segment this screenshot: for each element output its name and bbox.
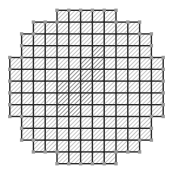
- mesh-cell: [69, 10, 81, 22]
- mesh-cell: [128, 34, 140, 46]
- mesh-cell: [81, 46, 93, 58]
- mesh-cell: [151, 93, 163, 105]
- mesh-cell: [33, 105, 45, 117]
- boundary-node: [8, 103, 11, 106]
- boundary-node: [138, 20, 141, 23]
- mesh-cell: [69, 128, 81, 140]
- mesh-cell: [128, 93, 140, 105]
- mesh-cell: [92, 10, 104, 22]
- mesh-cell: [69, 81, 81, 93]
- mesh-cell: [45, 34, 57, 46]
- mesh-cell: [116, 140, 128, 152]
- mesh-cell: [69, 105, 81, 117]
- mesh-cell: [128, 140, 140, 152]
- boundary-node: [162, 115, 165, 118]
- mesh-cell: [57, 81, 69, 93]
- mesh-cell: [104, 69, 116, 81]
- mesh-cell: [57, 140, 69, 152]
- mesh-cell: [116, 34, 128, 46]
- mesh-cell: [10, 81, 22, 93]
- mesh-cell: [104, 81, 116, 93]
- mesh-cell: [92, 140, 104, 152]
- mesh-cell: [81, 10, 93, 22]
- mesh-cell: [57, 10, 69, 22]
- boundary-node: [20, 138, 23, 141]
- boundary-node: [32, 20, 35, 23]
- boundary-node: [103, 162, 106, 165]
- boundary-node: [8, 91, 11, 94]
- boundary-node: [114, 20, 117, 23]
- mesh-cell: [10, 58, 22, 70]
- mesh-cell: [104, 105, 116, 117]
- boundary-node: [162, 91, 165, 94]
- mesh-cell: [116, 93, 128, 105]
- boundary-node: [126, 20, 129, 23]
- mesh-cell: [151, 105, 163, 117]
- mesh-cell: [45, 93, 57, 105]
- mesh-cell: [140, 46, 152, 58]
- boundary-node: [20, 44, 23, 47]
- mesh-cell: [57, 34, 69, 46]
- mesh-cell: [92, 152, 104, 164]
- mesh-cell: [33, 46, 45, 58]
- mesh-cell: [104, 22, 116, 34]
- mesh-cell: [69, 34, 81, 46]
- boundary-node: [150, 127, 153, 130]
- mesh-cell: [57, 93, 69, 105]
- mesh-cell: [92, 58, 104, 70]
- boundary-node: [138, 138, 141, 141]
- mesh-cell: [22, 105, 34, 117]
- mesh-cell: [33, 140, 45, 152]
- mesh-cell: [92, 105, 104, 117]
- mesh-cell: [81, 81, 93, 93]
- mesh-cell: [81, 93, 93, 105]
- mesh-cell: [128, 128, 140, 140]
- boundary-node: [138, 150, 141, 153]
- boundary-node: [162, 68, 165, 71]
- mesh-cell: [116, 22, 128, 34]
- mesh-cell: [92, 81, 104, 93]
- boundary-node: [150, 115, 153, 118]
- mesh-cell: [22, 58, 34, 70]
- mesh-cell: [57, 69, 69, 81]
- mesh-cell: [81, 105, 93, 117]
- boundary-node: [8, 115, 11, 118]
- mesh-cell: [128, 69, 140, 81]
- mesh-cell: [92, 128, 104, 140]
- boundary-node: [91, 9, 94, 12]
- mesh-cell: [81, 140, 93, 152]
- mesh-cell: [33, 117, 45, 129]
- mesh-cell: [128, 58, 140, 70]
- mesh-cell: [140, 128, 152, 140]
- mesh-cell: [151, 69, 163, 81]
- mesh-cell: [104, 34, 116, 46]
- boundary-node: [114, 9, 117, 12]
- mesh-cell: [33, 69, 45, 81]
- mesh-cell: [57, 46, 69, 58]
- mesh-cell: [116, 46, 128, 58]
- mesh-cell: [92, 34, 104, 46]
- mesh-cell: [104, 93, 116, 105]
- mesh-cell: [116, 117, 128, 129]
- mesh-cell: [57, 128, 69, 140]
- mesh-cell: [45, 81, 57, 93]
- mesh-cell: [33, 128, 45, 140]
- boundary-node: [32, 138, 35, 141]
- mesh-cell: [33, 22, 45, 34]
- mesh-cell: [92, 69, 104, 81]
- mesh-cell: [45, 22, 57, 34]
- mesh-cell: [45, 117, 57, 129]
- mesh-cell: [81, 117, 93, 129]
- mesh-cell: [45, 105, 57, 117]
- boundary-node: [44, 150, 47, 153]
- boundary-node: [103, 9, 106, 12]
- mesh-cell: [81, 152, 93, 164]
- mesh-cell: [33, 34, 45, 46]
- mesh-cell: [128, 81, 140, 93]
- boundary-node: [162, 56, 165, 59]
- boundary-node: [20, 32, 23, 35]
- mesh-cell: [140, 105, 152, 117]
- mesh-cell: [92, 93, 104, 105]
- mesh-cell: [22, 128, 34, 140]
- boundary-node: [55, 9, 58, 12]
